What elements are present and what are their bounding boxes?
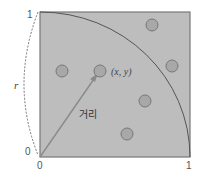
y-axis-label-1: 1 — [27, 9, 33, 20]
sample-point-xy — [94, 65, 106, 77]
sample-point — [146, 19, 158, 31]
sample-point — [121, 128, 133, 140]
radius-label: r — [14, 79, 19, 91]
sample-point — [56, 65, 68, 77]
x-axis-label-0: 0 — [37, 160, 43, 171]
point-label: (x, y) — [111, 66, 132, 78]
radius-dashed-arc — [24, 12, 38, 155]
monte-carlo-diagram: 1 r 0 0 1 (x, y) 거리 — [0, 0, 202, 182]
sample-point — [166, 60, 178, 72]
distance-label: 거리 — [79, 109, 97, 120]
unit-square — [40, 12, 190, 157]
sample-point — [139, 95, 151, 107]
x-axis-label-1: 1 — [186, 160, 192, 171]
y-axis-label-0: 0 — [25, 146, 31, 157]
